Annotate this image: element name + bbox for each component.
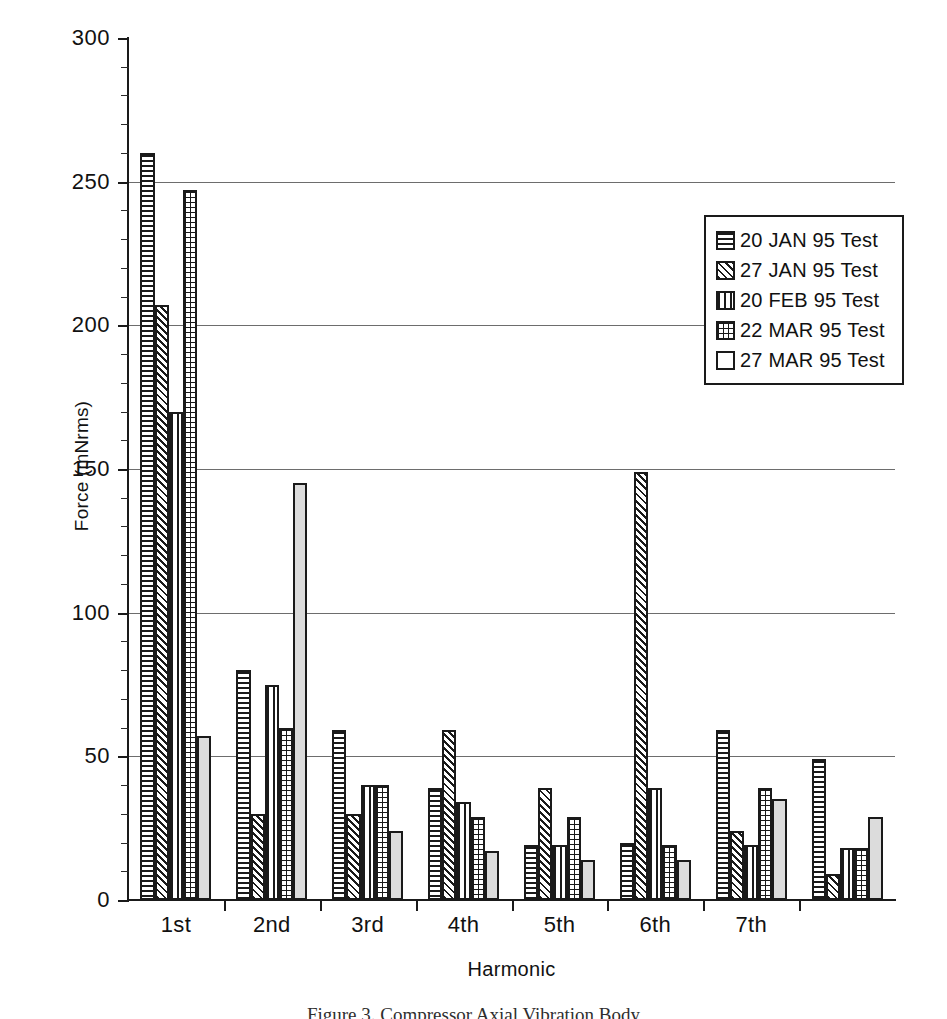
legend-item-label: 22 MAR 95 Test <box>740 319 885 342</box>
y-tick-label: 100 <box>50 602 110 624</box>
bar <box>183 190 197 900</box>
bar <box>677 860 691 900</box>
y-axis-tick-labels: 050100150200250300 <box>42 0 110 1019</box>
chart-legend: 20 JAN 95 Test27 JAN 95 Test20 FEB 95 Te… <box>704 215 904 385</box>
bar <box>730 831 744 900</box>
x-tick <box>320 899 322 911</box>
x-tick-label: 4th <box>419 912 509 938</box>
y-tick-label: 250 <box>50 171 110 193</box>
legend-item: 20 JAN 95 Test <box>716 225 894 255</box>
bar <box>826 874 840 900</box>
bar <box>456 802 470 900</box>
x-tick-label: 6th <box>610 912 700 938</box>
legend-swatch-icon <box>716 351 735 370</box>
bar <box>538 788 552 900</box>
bar <box>854 848 868 900</box>
bar <box>251 814 265 900</box>
bar <box>236 670 250 900</box>
x-tick <box>607 899 609 911</box>
legend-item: 22 MAR 95 Test <box>716 315 894 345</box>
x-tick <box>703 899 705 911</box>
legend-swatch-icon <box>716 261 735 280</box>
bar <box>648 788 662 900</box>
bar <box>868 817 882 900</box>
bar <box>428 788 442 900</box>
y-tick-label: 200 <box>50 314 110 336</box>
bar <box>552 845 566 900</box>
legend-item-label: 20 FEB 95 Test <box>740 289 879 312</box>
legend-swatch-icon <box>716 321 735 340</box>
bar <box>140 153 154 900</box>
legend-item-label: 27 JAN 95 Test <box>740 259 878 282</box>
y-major-tick <box>118 900 129 902</box>
bar <box>634 472 648 900</box>
bar <box>375 785 389 900</box>
bar <box>346 814 360 900</box>
x-tick-label: 1st <box>131 912 221 938</box>
y-tick-label: 50 <box>50 745 110 767</box>
legend-item-label: 20 JAN 95 Test <box>740 229 878 252</box>
bar <box>581 860 595 900</box>
bar <box>332 730 346 900</box>
y-tick-label: 0 <box>50 889 110 911</box>
bar <box>471 817 485 900</box>
y-tick-label: 300 <box>50 27 110 49</box>
bar <box>744 845 758 900</box>
y-tick-label: 150 <box>50 458 110 480</box>
x-tick-label: 5th <box>514 912 604 938</box>
bar <box>812 759 826 900</box>
bar <box>293 483 307 900</box>
bar <box>485 851 499 900</box>
bar-series-container <box>128 38 895 900</box>
x-tick <box>799 899 801 911</box>
bar <box>567 817 581 900</box>
figure-caption: Figure 3. Compressor Axial Vibration Bod… <box>0 1004 947 1019</box>
legend-swatch-icon <box>716 291 735 310</box>
x-tick <box>416 899 418 911</box>
x-tick <box>224 899 226 911</box>
x-tick-label: 3rd <box>323 912 413 938</box>
bar <box>361 785 375 900</box>
bar <box>279 728 293 900</box>
bar <box>772 799 786 900</box>
bar <box>662 845 676 900</box>
plot-area <box>128 38 895 900</box>
x-tick <box>512 899 514 911</box>
bar <box>197 736 211 900</box>
bar <box>155 305 169 900</box>
bar <box>169 412 183 900</box>
bar <box>524 845 538 900</box>
legend-swatch-icon <box>716 231 735 250</box>
x-axis-label: Harmonic <box>128 958 895 981</box>
chart-figure: Force (mNrms) 050100150200250300 1st2nd3… <box>0 0 947 1019</box>
bar <box>620 843 634 900</box>
bar <box>442 730 456 900</box>
legend-item: 27 JAN 95 Test <box>716 255 894 285</box>
legend-item: 20 FEB 95 Test <box>716 285 894 315</box>
x-axis-tick-labels: 1st2nd3rd4th5th6th7th <box>128 912 895 952</box>
legend-item: 27 MAR 95 Test <box>716 345 894 375</box>
bar <box>758 788 772 900</box>
legend-item-label: 27 MAR 95 Test <box>740 349 885 372</box>
bar <box>716 730 730 900</box>
bar <box>840 848 854 900</box>
bar <box>265 685 279 901</box>
x-tick-label: 7th <box>706 912 796 938</box>
bar <box>389 831 403 900</box>
x-tick-label: 2nd <box>227 912 317 938</box>
